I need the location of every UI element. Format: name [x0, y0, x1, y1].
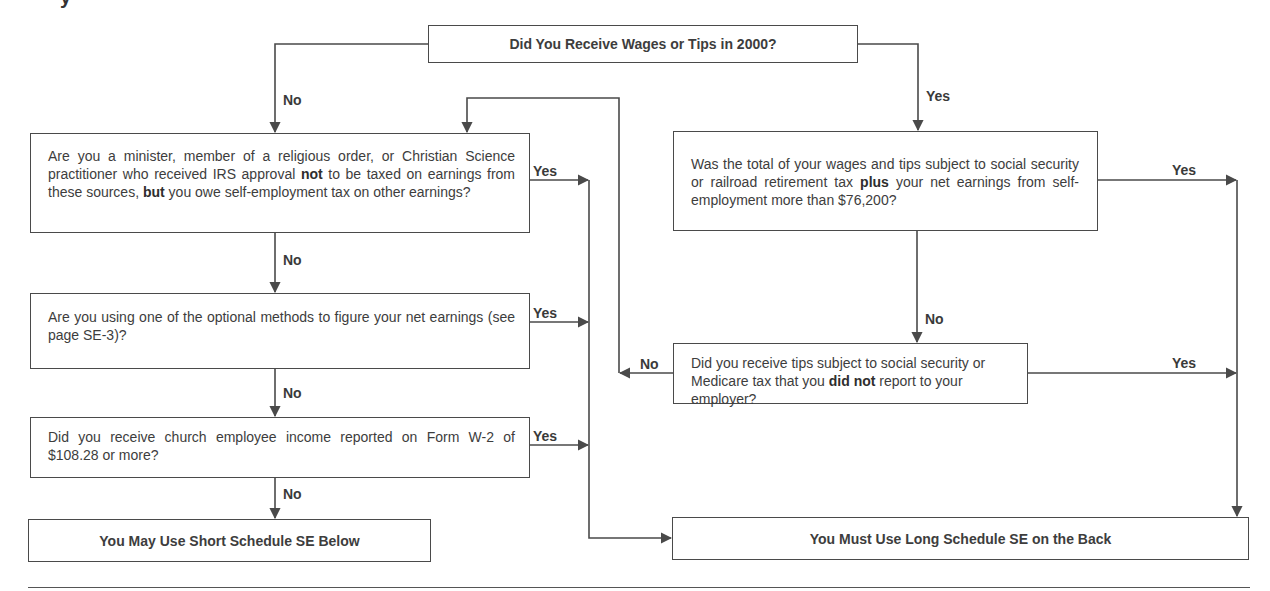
wages-total-question-box: Was the total of your wages and tips sub…: [673, 131, 1098, 231]
start-question-text: Did You Receive Wages or Tips in 2000?: [509, 35, 776, 53]
short-schedule-result-box: You May Use Short Schedule SE Below: [28, 519, 431, 562]
short-schedule-text: You May Use Short Schedule SE Below: [99, 532, 359, 550]
label-yes-tips: Yes: [1172, 355, 1196, 371]
optional-methods-text: Are you using one of the optional method…: [48, 309, 515, 343]
long-schedule-result-box: You Must Use Long Schedule SE on the Bac…: [672, 517, 1249, 560]
start-question-box: Did You Receive Wages or Tips in 2000?: [428, 25, 858, 63]
label-yes-wages: Yes: [1172, 162, 1196, 178]
church-income-text: Did you receive church employee income r…: [48, 429, 515, 463]
label-no-wages: No: [925, 311, 944, 327]
long-schedule-text: You Must Use Long Schedule SE on the Bac…: [810, 530, 1112, 548]
label-yes-minister: Yes: [533, 163, 557, 179]
label-no-optional: No: [283, 385, 302, 401]
label-yes-church: Yes: [533, 428, 557, 444]
church-income-question-box: Did you receive church employee income r…: [30, 417, 530, 478]
label-yes-optional: Yes: [533, 305, 557, 321]
label-no-church: No: [283, 486, 302, 502]
label-no-tips: No: [640, 356, 659, 372]
optional-methods-question-box: Are you using one of the optional method…: [30, 293, 530, 369]
label-yes-start: Yes: [926, 88, 950, 104]
label-no-minister: No: [283, 252, 302, 268]
bottom-rule: [28, 587, 1250, 588]
tips-question-box: Did you receive tips subject to social s…: [673, 343, 1028, 404]
label-no-start: No: [283, 92, 302, 108]
minister-question-box: Are you a minister, member of a religiou…: [30, 133, 530, 233]
